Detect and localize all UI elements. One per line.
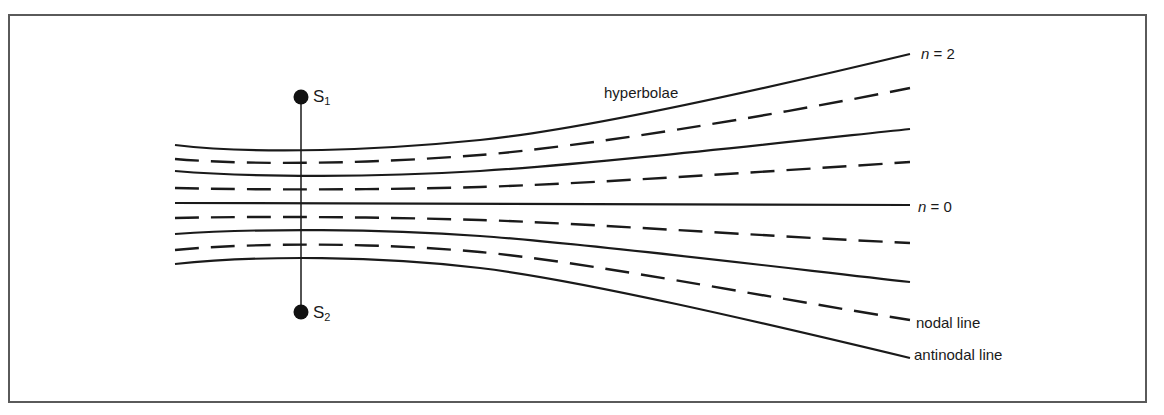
antinodal-line-8 xyxy=(175,258,910,358)
source-s2-label: S2 xyxy=(313,304,330,323)
antinodal-line-4 xyxy=(175,203,910,205)
source-s1-dot xyxy=(294,90,309,105)
source-s2-letter: S xyxy=(313,303,324,322)
antinodal-line-0 xyxy=(175,54,910,150)
source-s2-subscript: 2 xyxy=(324,311,330,323)
source-s1-label: S1 xyxy=(313,88,330,107)
n0-label: n = 0 xyxy=(918,199,952,214)
antinodal-line-label: antinodal line xyxy=(914,347,1002,362)
n2-label: n = 2 xyxy=(921,46,955,61)
hyperbolae-label: hyperbolae xyxy=(604,85,678,100)
source-s1-subscript: 1 xyxy=(324,95,330,107)
nodal-line-1 xyxy=(175,88,910,163)
n2-value: = 2 xyxy=(929,45,954,62)
nodal-line-label: nodal line xyxy=(916,315,980,330)
hyperbola-curves xyxy=(175,54,910,358)
source-s1-letter: S xyxy=(313,87,324,106)
n0-value: = 0 xyxy=(926,198,951,215)
source-s2-dot xyxy=(294,305,309,320)
nodal-line-7 xyxy=(175,245,910,320)
